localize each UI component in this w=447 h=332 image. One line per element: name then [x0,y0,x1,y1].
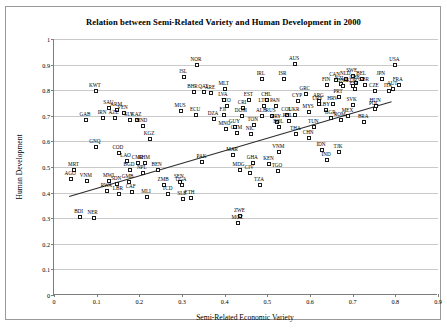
data-point[interactable] [94,145,98,149]
data-point[interactable] [189,196,193,200]
data-point[interactable] [304,92,308,96]
data-point[interactable] [258,183,262,187]
y-tick-mark [51,244,54,245]
data-point-label: KEN [263,155,274,161]
data-point[interactable] [236,221,240,225]
chart-title: Relation between Semi-Related Variety an… [0,17,447,27]
data-point[interactable] [209,91,213,95]
data-point-label: LTU [259,97,268,103]
data-point[interactable] [105,189,109,193]
gridline [54,141,438,142]
data-point-label: COD [112,144,123,150]
data-point[interactable] [346,114,350,118]
data-point[interactable] [260,77,264,81]
data-point[interactable] [156,168,160,172]
data-point-label: VNM [272,143,284,149]
data-point-label: SVK [347,96,357,102]
data-point[interactable] [277,125,281,129]
data-point-label: PAN [270,97,280,103]
data-point-label: MNG [219,120,231,126]
data-point[interactable] [325,158,329,162]
data-point[interactable] [200,160,204,164]
data-point[interactable] [182,75,186,79]
data-point[interactable] [141,124,145,128]
data-point[interactable] [380,77,384,81]
data-point[interactable] [78,215,82,219]
data-point[interactable] [141,171,145,175]
data-point[interactable] [222,113,226,117]
y-tick-label: 0.4 [42,189,50,196]
data-point[interactable] [195,63,199,67]
data-point[interactable] [331,102,335,106]
y-tick-mark [51,193,54,194]
data-point-label: GTM [231,124,242,130]
data-point-label: KHM [138,154,150,160]
data-point[interactable] [307,136,311,140]
data-point[interactable] [277,150,281,154]
data-point[interactable] [212,117,216,121]
data-point[interactable] [248,171,252,175]
data-point[interactable] [148,137,152,141]
data-point[interactable] [192,90,196,94]
x-tick-label: 0.2 [135,298,143,305]
y-tick-mark [51,141,54,142]
data-point-label: DZA [208,110,219,116]
data-point[interactable] [294,132,298,136]
data-point[interactable] [113,116,117,120]
data-point[interactable] [339,118,343,122]
data-point[interactable] [247,98,251,102]
data-point[interactable] [329,116,333,120]
data-point[interactable] [363,83,367,87]
data-point[interactable] [130,190,134,194]
data-point[interactable] [180,183,184,187]
data-point[interactable] [387,89,391,93]
data-point[interactable] [194,113,198,117]
data-point[interactable] [166,192,170,196]
data-point[interactable] [94,89,98,93]
data-point-label: TTO [221,97,231,103]
data-point[interactable] [249,132,253,136]
data-point-label: LBR [113,185,123,191]
data-point[interactable] [145,195,149,199]
data-point[interactable] [293,113,297,117]
data-point[interactable] [307,110,311,114]
x-tick-label: 0.8 [391,298,399,305]
data-point[interactable] [353,87,357,91]
data-point[interactable] [240,114,244,118]
data-point-label: GRC [299,85,310,91]
data-point[interactable] [224,127,228,131]
data-point[interactable] [276,169,280,173]
data-point-label: MUS [175,102,186,108]
data-point[interactable] [293,62,297,66]
data-point[interactable] [179,109,183,113]
data-point[interactable] [181,197,185,201]
data-point[interactable] [287,119,291,123]
data-point-label: CZE [369,82,379,88]
gridline [54,244,438,245]
data-point[interactable] [202,90,206,94]
data-point[interactable] [373,107,377,111]
data-point[interactable] [128,118,132,122]
data-point-label: TJK [334,143,343,149]
data-point[interactable] [117,192,121,196]
data-point[interactable] [325,83,329,87]
data-point[interactable] [238,168,242,172]
data-point[interactable] [128,168,132,172]
x-tick-mark [139,294,140,297]
data-point[interactable] [235,131,239,135]
data-point[interactable] [231,153,235,157]
data-point[interactable] [362,120,366,124]
data-point[interactable] [393,63,397,67]
x-tick-mark [395,294,396,297]
data-point[interactable] [85,179,89,183]
data-point[interactable] [260,114,264,118]
data-point[interactable] [101,116,105,120]
data-point[interactable] [282,77,286,81]
data-point[interactable] [84,118,88,122]
data-point[interactable] [373,89,377,93]
data-point[interactable] [92,216,96,220]
data-point[interactable] [337,150,341,154]
data-point[interactable] [296,99,300,103]
data-point[interactable] [69,177,73,181]
data-point-label: MLT [218,80,228,86]
